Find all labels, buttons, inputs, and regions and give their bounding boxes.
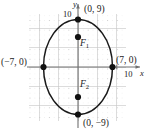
focus-2-letter: F — [80, 79, 86, 89]
label-focus-2: F2 — [80, 80, 89, 90]
point-focus-2 — [75, 94, 81, 100]
figure-canvas — [0, 0, 154, 136]
label-bottom-vertex: (0, −9) — [83, 119, 109, 129]
label-left-vertex: (−7, 0) — [1, 58, 27, 68]
label-top-vertex: (0, 9) — [84, 5, 105, 15]
y-axis-label: y — [73, 0, 77, 9]
focus-2-subscript: 2 — [86, 83, 89, 90]
x-axis-label: x — [140, 69, 144, 78]
ellipse-figure: (0, 9) (0, −9) (−7, 0) (7, 0) 10 10 y x … — [0, 0, 154, 136]
focus-1-subscript: 1 — [86, 42, 89, 49]
point-left-vertex — [40, 64, 46, 70]
y-axis-tick-label-10: 10 — [63, 10, 72, 19]
point-bottom-vertex — [75, 111, 81, 117]
label-right-vertex: (7, 0) — [116, 56, 137, 66]
label-focus-1: F1 — [80, 39, 89, 49]
focus-1-letter: F — [80, 38, 86, 48]
x-axis-tick-label-10: 10 — [124, 70, 133, 79]
point-right-vertex — [109, 64, 115, 70]
point-top-vertex — [75, 16, 81, 22]
